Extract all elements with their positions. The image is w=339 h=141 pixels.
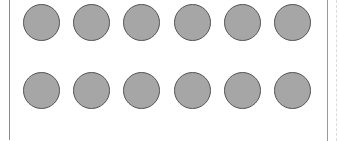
dot-r0-c4 — [224, 4, 261, 41]
dot-r0-c0 — [23, 4, 60, 41]
frame-left-border — [9, 0, 10, 140]
dot-r1-c3 — [174, 72, 211, 109]
dot-r0-c2 — [123, 4, 160, 41]
dot-r0-c1 — [73, 4, 110, 41]
dashed-guide-line — [336, 0, 337, 141]
frame-right-border — [327, 0, 328, 141]
dot-r1-c0 — [23, 72, 60, 109]
dot-array-diagram — [0, 0, 339, 141]
dot-r0-c5 — [274, 4, 311, 41]
dot-r1-c1 — [73, 72, 110, 109]
dot-r1-c5 — [274, 72, 311, 109]
dot-r0-c3 — [174, 4, 211, 41]
dot-r1-c2 — [123, 72, 160, 109]
dot-r1-c4 — [224, 72, 261, 109]
